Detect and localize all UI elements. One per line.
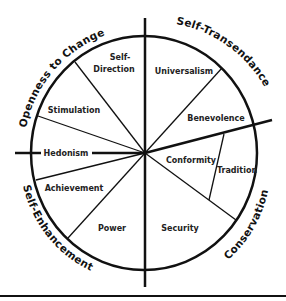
label-self-direction-1: Self- (110, 53, 131, 62)
label-universalism: Universalism (155, 67, 213, 76)
label-security: Security (161, 224, 199, 233)
label-achievement: Achievement (45, 184, 104, 193)
label-tradition: Tradition (217, 166, 257, 175)
label-stimulation: Stimulation (48, 106, 101, 115)
label-benevolence: Benevolence (187, 114, 245, 123)
quadrant-conservation: Conservation (221, 188, 270, 262)
label-conformity: Conformity (166, 156, 217, 165)
values-circle-diagram: Self- Direction Stimulation Hedonism Ach… (0, 0, 286, 301)
label-self-direction-2: Direction (93, 65, 135, 74)
divider-stimulation-hedonism (38, 116, 145, 153)
diagonal-axis-right (145, 120, 272, 153)
label-hedonism: Hedonism (44, 149, 89, 158)
label-power: Power (98, 224, 126, 233)
quadrant-self-transcendence: Self-Transendance (176, 14, 274, 88)
divider-universalism-benevolence (145, 68, 222, 153)
